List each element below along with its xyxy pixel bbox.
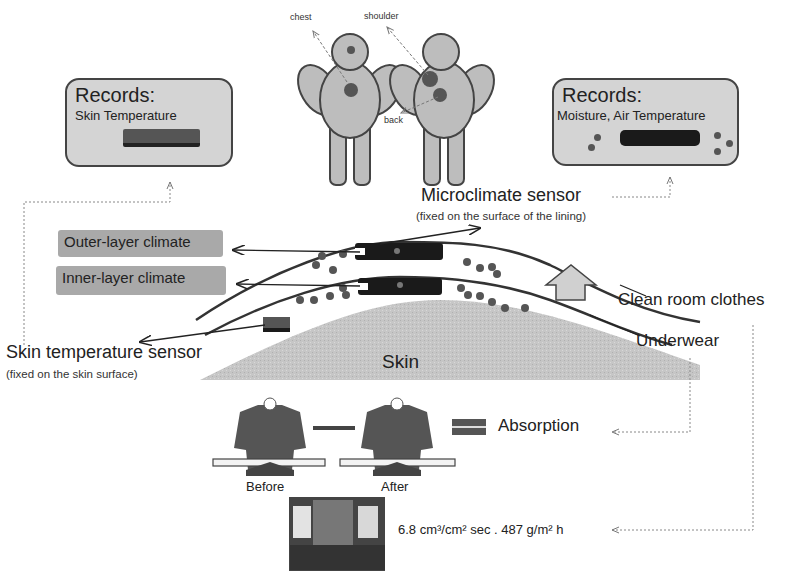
- skin-mound: [200, 300, 700, 380]
- microclimate-sensor-record-icon: [620, 130, 700, 146]
- microclimate-sensor-title: Microclimate sensor: [421, 185, 581, 206]
- skin-temperature-sensor-title: Skin temperature sensor: [6, 342, 202, 363]
- skin-label: Skin: [382, 351, 419, 373]
- records-title: Records:: [75, 84, 155, 107]
- before-label: Before: [246, 479, 284, 494]
- clean-room-clothes-label: Clean room clothes: [618, 290, 764, 310]
- dot: [714, 148, 721, 155]
- absorption-swatch-icon: [452, 419, 486, 435]
- records-skin-temperature-box: Records: Skin Temperature: [65, 78, 233, 167]
- shirt-before-icon: [213, 398, 325, 476]
- human-figure-back-icon: [382, 34, 502, 185]
- shirt-after-icon: [340, 398, 455, 476]
- permeability-tester-photo: [289, 497, 385, 571]
- outer-layer-climate-label: Outer-layer climate: [58, 230, 223, 257]
- inner-layer-climate-label: Inner-layer climate: [56, 266, 226, 295]
- absorption-label: Absorption: [498, 416, 579, 436]
- records-moisture-box: Records: Moisture, Air Temperature: [552, 78, 739, 166]
- back-label: back: [384, 115, 403, 125]
- records-subtitle: Skin Temperature: [75, 108, 177, 123]
- microclimate-sensor-note: (fixed on the surface of the lining): [416, 210, 586, 222]
- human-figure-front-icon: [290, 34, 410, 185]
- permeability-value: 6.8 cm³/cm² sec . 487 g/m² h: [398, 522, 563, 537]
- outer-microclimate-sensor-icon: [355, 243, 443, 260]
- after-label: After: [381, 479, 408, 494]
- chest-label: chest: [290, 12, 312, 22]
- records-subtitle: Moisture, Air Temperature: [557, 108, 706, 123]
- minus-sign: [313, 426, 355, 430]
- up-arrow-icon: [546, 265, 596, 300]
- records-title: Records:: [562, 84, 642, 107]
- skin-temperature-sensor-icon: [263, 317, 290, 332]
- underwear-label: Underwear: [636, 331, 719, 351]
- dot: [726, 140, 733, 147]
- skin-sensor-record-icon: [123, 129, 200, 147]
- dot: [594, 134, 601, 141]
- dot: [714, 132, 721, 139]
- skin-temperature-sensor-note: (fixed on the skin surface): [6, 368, 138, 380]
- inner-microclimate-sensor-icon: [358, 278, 442, 295]
- dot: [588, 144, 595, 151]
- shoulder-label: shoulder: [364, 11, 399, 21]
